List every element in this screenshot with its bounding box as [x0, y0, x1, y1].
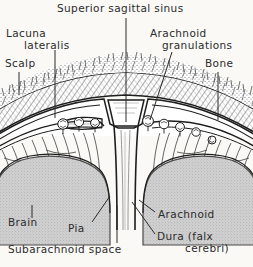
label-superior-sagittal-sinus: Superior sagittal sinus — [57, 2, 184, 14]
label-bone: Bone — [205, 57, 233, 69]
label-pia: Pia — [68, 222, 85, 234]
label-arachnoid: Arachnoid — [158, 208, 215, 220]
label-granulations-line1: Arachnoid — [150, 27, 207, 39]
brain-gyrus-left — [0, 156, 110, 245]
meninges-diagram-page: Superior sagittal sinus Lacuna lateralis… — [0, 0, 253, 267]
label-granulations-line2: granulations — [162, 40, 232, 52]
label-scalp: Scalp — [5, 57, 35, 69]
label-lacuna-line2: lateralis — [24, 40, 70, 52]
label-brain: Brain — [8, 216, 38, 228]
label-arachnoid-granulations: Arachnoid granulations — [150, 28, 232, 52]
label-dura-line2: cerebri) — [185, 243, 229, 255]
label-lacuna-line1: Lacuna — [6, 27, 46, 39]
label-subarachnoid-space: Subarachnoid space — [8, 243, 122, 255]
label-dura-falx-cerebri: Dura (falx cerebri) — [157, 231, 229, 255]
label-dura-line1: Dura (falx — [157, 230, 213, 242]
label-lacuna-lateralis: Lacuna lateralis — [6, 28, 70, 52]
